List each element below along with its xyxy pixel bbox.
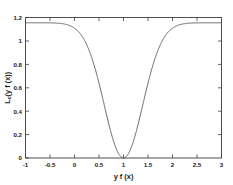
y-tick-label: 0.2 bbox=[13, 131, 22, 138]
x-tick-labels: -1 -0.5 0 0.5 1 1.5 2 2.5 3 bbox=[23, 161, 224, 168]
plot-frame bbox=[26, 18, 222, 159]
x-tick-label: 1.5 bbox=[144, 161, 153, 168]
y-axis-title: Lc(y f (x)) bbox=[3, 71, 13, 104]
x-tick-label: -0.5 bbox=[45, 161, 56, 168]
y-tick-label: 1.2 bbox=[13, 14, 22, 21]
x-tick-label: 3 bbox=[220, 161, 224, 168]
chart-figure: -1 -0.5 0 0.5 1 1.5 2 2.5 3 0 0.2 0.4 0.… bbox=[0, 0, 233, 185]
x-axis-ticks-top bbox=[50, 18, 197, 22]
y-tick-label: 0.4 bbox=[13, 108, 22, 115]
x-axis-ticks bbox=[26, 155, 222, 159]
y-axis-ticks-right bbox=[218, 41, 222, 135]
y-tick-label: 0 bbox=[19, 154, 23, 161]
y-tick-label: 0.8 bbox=[13, 61, 22, 68]
x-tick-label: -1 bbox=[23, 161, 29, 168]
line-chart: -1 -0.5 0 0.5 1 1.5 2 2.5 3 0 0.2 0.4 0.… bbox=[0, 0, 233, 185]
y-axis-title-rest: (y f (x)) bbox=[3, 71, 12, 96]
x-tick-label: 1 bbox=[122, 161, 126, 168]
x-tick-label: 2 bbox=[171, 161, 175, 168]
y-tick-labels: 0 0.2 0.4 0.6 0.8 1 1.2 bbox=[13, 14, 22, 161]
x-tick-label: 0 bbox=[73, 161, 77, 168]
data-curve bbox=[26, 23, 222, 158]
y-tick-label: 1 bbox=[19, 37, 23, 44]
svg-text:Lc(y f (x)): Lc(y f (x)) bbox=[3, 71, 13, 104]
x-tick-label: 0.5 bbox=[95, 161, 104, 168]
y-axis-ticks bbox=[26, 18, 30, 159]
y-tick-label: 0.6 bbox=[13, 84, 22, 91]
x-axis-title: y f (x) bbox=[114, 172, 134, 181]
x-tick-label: 2.5 bbox=[193, 161, 202, 168]
